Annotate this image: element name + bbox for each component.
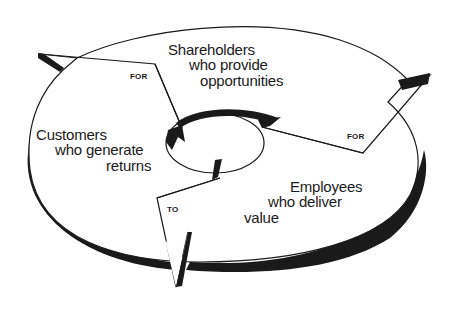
node-shareholders: Shareholders who provide opportunities bbox=[168, 42, 283, 88]
node-employees: Employees who deliver value bbox=[244, 179, 362, 225]
node-customers: Customers who generate returns bbox=[36, 127, 151, 173]
node-customers-line-1: Customers bbox=[36, 127, 151, 142]
node-shareholders-line-2: who provide bbox=[168, 57, 283, 72]
node-customers-line-2: who generate bbox=[36, 142, 151, 157]
connector-label-shareholders-to-employees: FOR bbox=[347, 133, 365, 141]
node-customers-line-3: returns bbox=[36, 158, 151, 173]
node-shareholders-line-3: opportunities bbox=[168, 73, 283, 88]
node-employees-line-2: who deliver bbox=[244, 194, 362, 209]
node-employees-line-3: value bbox=[244, 210, 362, 225]
node-employees-line-1: Employees bbox=[244, 179, 362, 194]
connector-label-employees-to-customers: TO bbox=[167, 206, 178, 214]
connector-label-customers-to-shareholders: FOR bbox=[130, 73, 148, 81]
node-shareholders-line-1: Shareholders bbox=[168, 42, 283, 57]
